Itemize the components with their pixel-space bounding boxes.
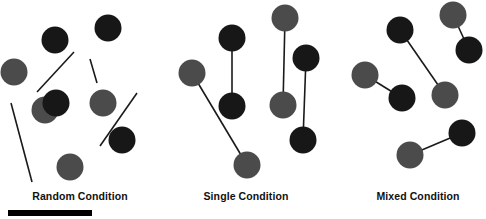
panel-label-mixed: Mixed Condition [376, 190, 459, 202]
gray-dot [90, 90, 117, 117]
gray-dot [440, 2, 467, 29]
dark-dot [219, 25, 246, 52]
gray-dot [272, 5, 299, 32]
gray-dot [270, 92, 297, 119]
gray-dot [1, 59, 28, 86]
gray-dot [234, 152, 261, 179]
dark-dot [219, 93, 246, 120]
dark-dot [449, 120, 476, 147]
dark-dot [109, 127, 136, 154]
panel-mixed-group [352, 2, 483, 169]
gray-dot [432, 82, 459, 109]
line-segment [37, 52, 74, 92]
gray-dot [397, 142, 424, 169]
dark-dot [293, 45, 320, 72]
panel-label-random: Random Condition [32, 190, 128, 202]
connector-line [192, 73, 247, 165]
gray-dot [57, 154, 84, 181]
dark-dot [43, 90, 70, 117]
dark-dot [42, 27, 69, 54]
panel-random-group [1, 15, 138, 183]
panel-label-single: Single Condition [203, 190, 288, 202]
dark-dot [95, 15, 122, 42]
scale-bar [8, 210, 92, 216]
gray-dot [179, 60, 206, 87]
dark-dot [387, 17, 414, 44]
stimulus-figure: Random Condition Single Condition Mixed … [0, 0, 486, 219]
dark-dot [389, 85, 416, 112]
line-segment [90, 59, 97, 83]
dark-dot [290, 127, 317, 154]
stimulus-canvas [0, 0, 486, 219]
gray-dot [352, 62, 379, 89]
dark-dot [456, 37, 483, 64]
line-segment [11, 103, 32, 182]
panel-single-group [179, 5, 320, 179]
